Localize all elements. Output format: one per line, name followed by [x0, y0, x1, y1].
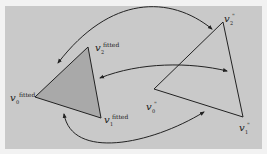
- label-v0-target: v 0 ": [146, 100, 157, 114]
- svg-text:": ": [247, 121, 250, 128]
- fitted-triangle: [35, 47, 101, 118]
- svg-text:0: 0: [16, 99, 19, 105]
- label-v2-fitted: v 2 fitted: [95, 41, 119, 55]
- label-v2-target: v 2 ": [224, 12, 235, 26]
- label-v1-fitted: v 1 fitted: [104, 113, 128, 127]
- svg-text:2: 2: [101, 49, 104, 55]
- target-triangle: [154, 22, 243, 117]
- arrow-bottom: [64, 112, 204, 143]
- svg-text:0: 0: [152, 108, 155, 114]
- label-v1-target: v 1 ": [239, 121, 250, 135]
- svg-text:": ": [154, 100, 157, 107]
- svg-text:": ": [232, 12, 235, 19]
- svg-text:fitted: fitted: [112, 113, 128, 120]
- label-v0-fitted: v 0 fitted: [10, 91, 35, 105]
- svg-text:1: 1: [110, 121, 113, 127]
- svg-text:fitted: fitted: [19, 91, 35, 98]
- correspondence-diagram: v 0 fitted v 2 fitted v 1 fitted v 0 " v…: [0, 0, 267, 154]
- svg-text:2: 2: [230, 20, 233, 26]
- arrow-middle: [100, 65, 227, 78]
- svg-text:fitted: fitted: [103, 41, 119, 48]
- svg-text:1: 1: [245, 129, 248, 135]
